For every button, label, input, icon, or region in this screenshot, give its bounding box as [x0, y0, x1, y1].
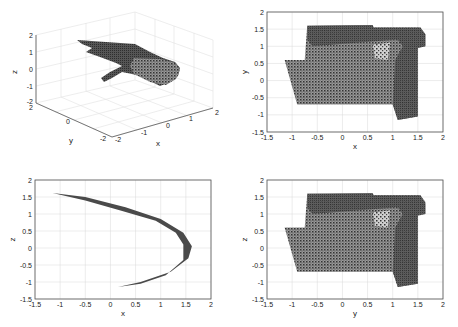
y-tick: -2	[100, 135, 106, 142]
y-tick: 0	[260, 77, 264, 84]
y-axis-label: z	[240, 238, 249, 242]
x-tick: -1	[289, 134, 295, 141]
x-tick: 1.5	[181, 301, 191, 308]
3d-point-cloud	[77, 40, 180, 86]
x-tick: 0.5	[363, 134, 373, 141]
y-axis-label: z	[8, 238, 17, 242]
plot-xz-projection: -1.5-1-0.500.511.52-1.5-1-0.500.511.52xz	[8, 177, 213, 319]
y-tick: 1	[28, 211, 32, 218]
x-tick: 1	[189, 115, 193, 122]
x-tick: 1.5	[413, 301, 423, 308]
x-tick: 2	[215, 109, 219, 116]
y-tick: 2	[29, 104, 33, 111]
figure: 2 1 0 -1 -2 z 2 0 -2 y -2 -1 0 1 2 x -1.…	[0, 0, 458, 327]
y-tick: -1.5	[20, 296, 32, 303]
z-tick: 0	[29, 66, 33, 73]
y-tick: 1.5	[254, 26, 264, 33]
x-tick: -0.5	[311, 301, 323, 308]
y-tick: 2	[260, 177, 264, 184]
y-tick: -0.5	[252, 94, 264, 101]
plot-xy-projection: -1.5-1-0.500.511.52-1.5-1-0.500.511.52xy	[240, 9, 445, 152]
y-tick: -0.5	[252, 262, 264, 269]
x-axis-label: y	[353, 309, 357, 318]
point-cloud	[285, 193, 426, 287]
plot-yz-projection: -1.5-1-0.500.511.52-1.5-1-0.500.511.52yz	[240, 177, 445, 319]
x-tick: -0.5	[311, 134, 323, 141]
y-tick: 1	[260, 43, 264, 50]
x-tick: 2	[441, 301, 445, 308]
x-tick: 0	[166, 122, 170, 129]
x-tick: 0	[340, 301, 344, 308]
3d-zlabel: z	[10, 70, 19, 74]
x-tick: 0	[340, 134, 344, 141]
y-tick: 1	[260, 211, 264, 218]
x-tick: 1	[159, 301, 163, 308]
plot-3d-pointcloud: 2 1 0 -1 -2 z 2 0 -2 y -2 -1 0 1 2 x	[10, 12, 219, 148]
y-tick: -0.5	[20, 262, 32, 269]
y-tick: -1.5	[252, 129, 264, 136]
3d-xlabel: x	[156, 139, 160, 148]
x-tick: 0.5	[131, 301, 141, 308]
x-tick: -1	[141, 129, 147, 136]
x-axis-label: x	[121, 309, 125, 318]
y-tick: 0	[260, 245, 264, 252]
x-tick: 1	[391, 301, 395, 308]
y-tick: -1.5	[252, 296, 264, 303]
x-tick: 0.5	[363, 301, 373, 308]
x-tick: 1.5	[413, 134, 423, 141]
y-tick: 0.5	[254, 60, 264, 67]
3d-grid	[36, 12, 213, 137]
x-axis-label: x	[353, 142, 357, 151]
3d-x-ticks: -2 -1 0 1 2	[115, 109, 219, 143]
y-axis-label: y	[240, 70, 249, 74]
x-tick: 1	[391, 134, 395, 141]
3d-y-ticks: 2 0 -2	[29, 104, 106, 142]
y-tick: 0	[28, 245, 32, 252]
point-cloud	[285, 25, 426, 120]
x-tick: 0	[108, 301, 112, 308]
z-tick: 1	[29, 49, 33, 56]
y-tick: -1	[26, 279, 32, 286]
y-tick: 2	[28, 177, 32, 184]
x-tick: 2	[441, 134, 445, 141]
y-tick: 1.5	[22, 194, 32, 201]
x-tick: -2	[115, 136, 121, 143]
y-tick: 0.5	[254, 228, 264, 235]
z-tick: 2	[29, 32, 33, 39]
y-tick: -1	[258, 111, 264, 118]
3d-ylabel: y	[69, 136, 73, 145]
y-tick: -1	[258, 279, 264, 286]
y-tick: 0.5	[22, 228, 32, 235]
x-tick: -1	[57, 301, 63, 308]
y-tick: 0	[66, 118, 70, 125]
z-tick: -1	[27, 83, 33, 90]
x-tick: -0.5	[79, 301, 91, 308]
y-tick: 1.5	[254, 194, 264, 201]
x-tick: -1	[289, 301, 295, 308]
3d-z-ticks: 2 1 0 -1 -2	[27, 32, 33, 105]
x-tick: 2	[209, 301, 213, 308]
point-cloud	[53, 193, 192, 287]
y-tick: 2	[260, 9, 264, 16]
